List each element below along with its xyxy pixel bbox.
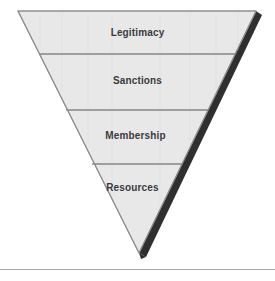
band-label-membership: Membership bbox=[0, 130, 271, 141]
inverted-pyramid-diagram: Legitimacy Sanctions Membership Resource… bbox=[0, 0, 275, 281]
band-label-resources: Resources bbox=[0, 182, 265, 193]
figure-container: Characteristics bbox=[0, 0, 275, 281]
band-label-legitimacy: Legitimacy bbox=[0, 27, 275, 38]
bottom-divider-rule bbox=[0, 269, 275, 270]
band-label-sanctions: Sanctions bbox=[0, 75, 275, 86]
